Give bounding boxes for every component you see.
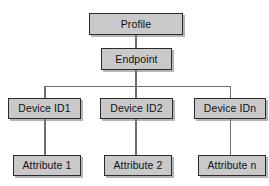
node-device-1[interactable]: Device ID1 (8, 98, 81, 119)
edge-device-bus (44, 86, 231, 88)
node-attribute-n[interactable]: Attribute n (198, 155, 266, 176)
diagram-canvas: Profile Endpoint Device ID1 Device ID2 D… (0, 0, 269, 186)
node-endpoint[interactable]: Endpoint (101, 48, 172, 70)
node-endpoint-label: Endpoint (115, 53, 157, 64)
edge-device-1-attribute-1 (44, 118, 46, 156)
node-profile[interactable]: Profile (89, 13, 183, 35)
node-attribute-2[interactable]: Attribute 2 (104, 155, 172, 176)
node-attribute-1-label: Attribute 1 (23, 160, 72, 171)
node-device-n-label: Device IDn (204, 103, 256, 114)
node-attribute-1[interactable]: Attribute 1 (13, 155, 81, 176)
edge-endpoint-bus (135, 69, 137, 100)
node-device-2-label: Device ID2 (110, 103, 162, 114)
edge-device-n-attribute-n (230, 118, 232, 156)
edge-profile-endpoint (135, 34, 137, 49)
edge-device-2-attribute-2 (135, 118, 137, 156)
node-profile-label: Profile (121, 18, 151, 29)
node-device-1-label: Device ID1 (18, 103, 70, 114)
node-device-2[interactable]: Device ID2 (100, 98, 173, 119)
node-attribute-n-label: Attribute n (208, 160, 257, 171)
node-attribute-2-label: Attribute 2 (114, 160, 163, 171)
node-device-n[interactable]: Device IDn (194, 98, 266, 119)
